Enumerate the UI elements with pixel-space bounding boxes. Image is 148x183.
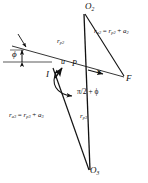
angle-label-phi: ϕ	[12, 50, 17, 59]
point-label-I: I	[46, 70, 49, 79]
vector-label-v: v	[97, 68, 101, 76]
equation-apoapsis-2: ra2 = rp2 + a2	[94, 28, 129, 35]
arrow-to-slant-line	[18, 34, 26, 47]
diagram-canvas: O2 O3 F I P u v rp2 rp3 ϕ π/2 + ϕ ra2 = …	[0, 0, 148, 183]
point-label-O2: O2	[85, 2, 94, 11]
arc-angle-pi-over-2-plus-phi	[54, 70, 72, 96]
point-label-O3: O3	[90, 166, 99, 175]
equation-apoapsis-3: ra3 = rp3 + a3	[9, 112, 44, 119]
line-O2-to-F	[85, 14, 124, 76]
label-r-p2: rp2	[57, 38, 64, 45]
label-r-p3: rp3	[80, 113, 87, 120]
point-label-P: P	[72, 60, 77, 68]
line-phi-slant	[12, 46, 124, 77]
angle-label-pi-over-2-plus-phi: π/2 + ϕ	[77, 88, 99, 96]
point-label-F: F	[126, 74, 132, 83]
vector-label-u: u	[61, 58, 65, 66]
